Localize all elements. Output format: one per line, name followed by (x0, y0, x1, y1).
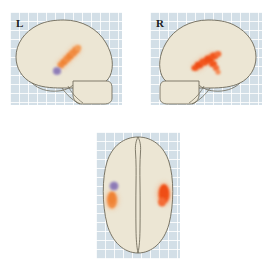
sagittal-right-brain-svg (150, 12, 262, 105)
sagittal-left-brain-svg (10, 12, 122, 105)
panel-label-right: R (156, 18, 164, 29)
panel-sagittal-left: L (10, 12, 122, 105)
activation-purple-blob-left (53, 67, 61, 75)
activation-purple-blob-axial-left (109, 181, 118, 190)
panel-sagittal-right: R (150, 12, 262, 105)
cerebellum-right (160, 81, 199, 104)
axial-brain-svg (96, 132, 180, 259)
cerebrum-outline-left (16, 20, 112, 88)
panel-axial (96, 132, 180, 259)
activation-orange-blob-axial-left (107, 192, 117, 209)
panel-label-left: L (16, 18, 24, 29)
glass-brain-figure: L (0, 0, 276, 271)
cerebellum-left (73, 81, 112, 104)
